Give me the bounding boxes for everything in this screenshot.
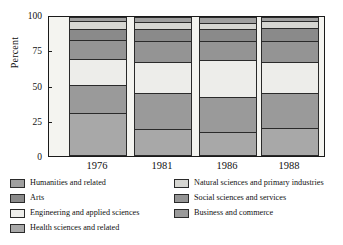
bar-segment [262, 93, 318, 128]
bar-segment [262, 41, 318, 62]
bar-segment [70, 21, 126, 30]
legend-item-label: Engineering and applied sciences [30, 209, 139, 217]
legend-item: Business and commerce [174, 206, 343, 221]
legend-swatch-icon [10, 194, 25, 203]
y-tick-mark-75 [48, 51, 52, 52]
legend-item-label: Arts [30, 194, 44, 202]
y-tick-mark-25 [48, 122, 52, 123]
bar-1976 [69, 17, 127, 156]
bar-1988 [261, 17, 319, 156]
bar-segment [70, 40, 126, 59]
legend-item-label: Health sciences and related [30, 224, 119, 232]
y-tick-mark-50 [48, 87, 52, 88]
y-tick-label-100: 100 [18, 11, 42, 21]
legend-item: Engineering and applied sciences [10, 206, 180, 221]
bar-segment [262, 28, 318, 41]
bar-segment [200, 97, 256, 132]
legend-item-label: Social sciences and services [194, 194, 286, 202]
bar-segment [262, 128, 318, 156]
legend-swatch-icon [10, 209, 25, 218]
bar-segment [135, 129, 191, 156]
bar-segment [135, 93, 191, 129]
legend-item: Social sciences and services [174, 191, 343, 206]
bar-segment [200, 29, 256, 40]
bars-layer [49, 17, 324, 156]
bar-segment [70, 29, 126, 39]
bar-segment [70, 59, 126, 85]
bar-segment [200, 60, 256, 96]
bar-segment [200, 41, 256, 60]
y-tick-label-50: 50 [18, 82, 42, 92]
legend-swatch-icon [10, 179, 25, 188]
bar-1986 [199, 17, 257, 156]
x-tick-label-1981: 1981 [127, 160, 197, 171]
bar-segment [135, 29, 191, 40]
bar-1981 [134, 17, 192, 156]
bar-segment [135, 62, 191, 93]
x-tick-label-1976: 1976 [62, 160, 132, 171]
bar-segment [200, 132, 256, 156]
legend-column-right: Natural sciences and primary industriesS… [174, 176, 343, 221]
legend-swatch-icon [10, 224, 25, 233]
legend-item: Arts [10, 191, 180, 206]
legend-swatch-icon [174, 209, 189, 218]
y-tick-label-75: 75 [18, 46, 42, 56]
legend-item: Humanities and related [10, 176, 180, 191]
stacked-bar-chart: Percent 0255075100 1976198119861988 Huma… [0, 0, 343, 245]
bar-segment [70, 113, 126, 156]
legend-swatch-icon [174, 194, 189, 203]
x-tick-label-1986: 1986 [192, 160, 262, 171]
legend-item-label: Natural sciences and primary industries [194, 179, 324, 187]
legend-item-label: Humanities and related [30, 179, 106, 187]
legend-item: Health sciences and related [10, 221, 180, 236]
y-tick-label-25: 25 [18, 117, 42, 127]
legend-column-left: Humanities and relatedArtsEngineering an… [10, 176, 180, 236]
bar-segment [262, 62, 318, 93]
y-tick-label-0: 0 [18, 152, 42, 162]
bar-segment [135, 41, 191, 62]
legend-swatch-icon [174, 179, 189, 188]
plot-area [48, 16, 325, 157]
legend-item-label: Business and commerce [194, 209, 273, 217]
bar-segment [262, 21, 318, 29]
x-tick-label-1988: 1988 [254, 160, 324, 171]
bar-segment [70, 85, 126, 114]
chart-legend: Humanities and relatedArtsEngineering an… [6, 176, 340, 242]
bar-segment [135, 22, 191, 30]
legend-item: Natural sciences and primary industries [174, 176, 343, 191]
